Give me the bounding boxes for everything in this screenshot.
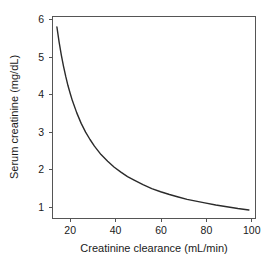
- y-tick-label-1: 1: [38, 201, 44, 213]
- y-axis-title: Serum creatinine (mg/dL): [8, 55, 20, 179]
- x-tick-label-100: 100: [243, 224, 261, 236]
- y-tick-label-4: 4: [38, 88, 44, 100]
- y-tick-label-2: 2: [38, 163, 44, 175]
- x-axis-title: Creatinine clearance (mL/min): [80, 242, 227, 254]
- x-tick-label-60: 60: [155, 224, 167, 236]
- y-tick-label-6: 6: [38, 13, 44, 25]
- chart-figure: 6 5 4 3 2 1 20 40 60 80 100 Creatinine c…: [0, 0, 273, 267]
- x-tick-label-40: 40: [110, 224, 122, 236]
- x-tick-label-80: 80: [201, 224, 213, 236]
- x-tick-label-20: 20: [64, 224, 76, 236]
- y-tick-label-5: 5: [38, 51, 44, 63]
- y-tick-label-3: 3: [38, 126, 44, 138]
